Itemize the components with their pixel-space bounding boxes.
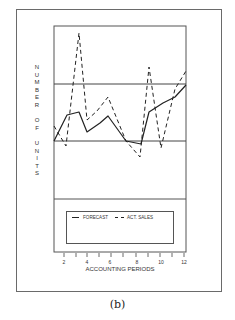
legend-label-actual-sales: ACT. SALES — [127, 215, 153, 220]
legend-label-forecast: FORECAST — [83, 215, 108, 220]
legend-item-forecast: FORECAST — [72, 215, 108, 220]
y-axis-label-letter: U — [33, 72, 41, 80]
x-tick-label: 8 — [136, 259, 139, 265]
y-axis-label-letter: M — [33, 79, 41, 87]
x-tick-label: 2 — [63, 259, 66, 265]
y-axis-label-letter: I — [33, 155, 41, 163]
y-axis-label-letter: B — [33, 87, 41, 95]
y-axis-label-letter: N — [33, 148, 41, 156]
y-axis-label-letter: N — [33, 64, 41, 72]
y-axis-label-letter: E — [33, 94, 41, 102]
y-axis-label-letter: R — [33, 102, 41, 110]
dashed-line-swatch-icon — [115, 217, 124, 218]
y-axis-label-letter: T — [33, 163, 41, 171]
solid-line-swatch-icon — [72, 217, 79, 218]
y-axis-label-letter: S — [33, 170, 41, 178]
y-axis-label-letter — [33, 110, 41, 118]
x-tick-label: 10 — [158, 259, 164, 265]
actual-sales-line — [54, 33, 186, 157]
y-axis-label-letter — [33, 132, 41, 140]
y-axis-label-letter: F — [33, 125, 41, 133]
x-tick-label: 4 — [86, 259, 89, 265]
y-axis-label-letter: O — [33, 117, 41, 125]
x-tick-label: 6 — [109, 259, 112, 265]
x-axis-label: ACCOUNTING PERIODS — [54, 266, 186, 272]
y-axis-label: NUMBEROFUNITS — [33, 64, 41, 178]
legend-item-actual-sales: ACT. SALES — [115, 215, 153, 220]
legend: FORECAST ACT. SALES — [66, 211, 174, 244]
forecast-line — [54, 85, 186, 144]
x-tick-label: 12 — [181, 259, 187, 265]
y-axis-label-letter: U — [33, 140, 41, 148]
figure-caption: (b) — [0, 298, 235, 311]
x-axis-ticks — [64, 253, 184, 257]
